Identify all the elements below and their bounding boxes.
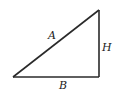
- hypotenuse-line: [13, 10, 99, 77]
- triangle-shape: [13, 10, 99, 77]
- right-triangle-diagram: A H B: [0, 0, 116, 94]
- base-label: B: [58, 79, 67, 92]
- hypotenuse-label: A: [47, 29, 56, 42]
- vertical-side-label: H: [101, 41, 112, 54]
